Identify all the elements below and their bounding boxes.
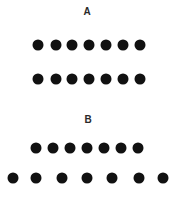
row-a-top-dot-5 (101, 40, 112, 51)
row-b-top-dot-5 (99, 143, 110, 154)
row-a-bottom-dot-1 (33, 74, 44, 85)
row-b-top-dot-3 (65, 143, 76, 154)
row-a-bottom-dot-4 (84, 74, 95, 85)
panel-label-a: A (83, 7, 90, 17)
row-b-top-dot-4 (82, 143, 93, 154)
row-b-bottom-dot-2 (31, 173, 42, 184)
row-a-top-dot-2 (51, 40, 62, 51)
row-a-top-dot-1 (33, 40, 44, 51)
row-b-top-dot-7 (133, 143, 144, 154)
row-a-bottom-dot-3 (67, 74, 78, 85)
row-b-top-dot-1 (31, 143, 42, 154)
row-a-top-dot-6 (118, 40, 129, 51)
row-b-bottom-dot-1 (8, 173, 19, 184)
row-b-bottom-dot-4 (82, 173, 93, 184)
panel-label-b: B (84, 115, 91, 125)
row-b-top-dot-6 (116, 143, 127, 154)
row-a-bottom-dot-7 (135, 74, 146, 85)
row-a-top-dot-7 (135, 40, 146, 51)
row-a-top-dot-4 (84, 40, 95, 51)
row-b-bottom-dot-7 (158, 173, 169, 184)
row-b-top-dot-2 (48, 143, 59, 154)
row-a-bottom-dot-2 (51, 74, 62, 85)
row-a-bottom-dot-6 (118, 74, 129, 85)
row-b-bottom-dot-3 (57, 173, 68, 184)
row-b-bottom-dot-5 (107, 173, 118, 184)
row-a-top-dot-3 (67, 40, 78, 51)
row-a-bottom-dot-5 (101, 74, 112, 85)
row-b-bottom-dot-6 (134, 173, 145, 184)
